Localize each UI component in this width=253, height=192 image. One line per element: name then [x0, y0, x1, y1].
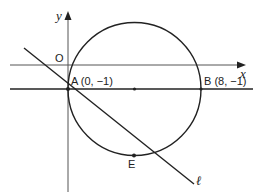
point-e-label: E [128, 158, 135, 170]
line-l [24, 48, 194, 184]
point-e [132, 154, 136, 158]
origin-label: O [55, 52, 64, 64]
y-axis-label: y [54, 8, 62, 23]
y-axis-arrow-icon [65, 11, 72, 20]
point-b [199, 87, 202, 90]
point-a-label: A (0, −1) [71, 75, 113, 87]
line-l-label: ℓ [196, 173, 202, 188]
point-b-label: B (8, −1) [204, 75, 247, 87]
geometry-diagram: x y O ℓ A (0, −1) B (8, −1) E [0, 0, 253, 192]
circle-center-point [133, 87, 136, 90]
point-a [66, 87, 70, 91]
